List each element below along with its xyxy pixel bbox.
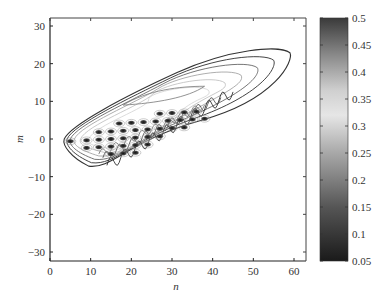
contour-peak [200, 116, 208, 121]
contour-peak [119, 136, 127, 141]
x-tick-label: 30 [167, 265, 179, 277]
x-axis-label: n [173, 280, 179, 292]
colorbar-tick-label: 0.25 [352, 147, 372, 159]
x-tick-label: 20 [126, 265, 138, 277]
y-tick-label: 0 [40, 133, 46, 145]
contour-peak [131, 135, 139, 140]
contour-peak [152, 119, 160, 124]
colorbar-tick-label: 0.35 [352, 93, 372, 105]
contour-peak [168, 110, 176, 115]
contour-peak [66, 139, 74, 144]
contour-peak [107, 129, 115, 134]
contour-peak [119, 128, 127, 133]
contour-peak [156, 126, 164, 131]
x-tick-label: 10 [85, 265, 97, 277]
contour-peak [127, 120, 135, 125]
colorbar-tick-label: 0.45 [352, 39, 372, 51]
colorbar-tick-label: 0.2 [352, 174, 366, 186]
contour-peak [82, 145, 90, 150]
colorbar-tick-label: 0.1 [352, 228, 366, 240]
contour-peak [143, 127, 151, 132]
x-tick-label: 50 [248, 265, 260, 277]
contour-peak [107, 151, 115, 156]
x-tick-label: 0 [47, 265, 53, 277]
y-tick-label: 10 [34, 95, 46, 107]
colorbar-tick-label: 0.05 [352, 255, 372, 267]
contour-peak [143, 142, 151, 147]
contour-peak [107, 136, 115, 141]
y-tick-label: 20 [34, 58, 46, 70]
contour-peak [95, 130, 103, 135]
y-tick-label: −20 [28, 208, 46, 220]
contour-peak [180, 110, 188, 115]
contour-peak [119, 151, 127, 156]
colorbar-tick-label: 0.4 [352, 66, 366, 78]
x-tick-label: 40 [207, 265, 219, 277]
colorbar-tick-label: 0.3 [352, 120, 366, 132]
colorbar-tick-label: 0.5 [352, 12, 366, 24]
contour-peak [95, 137, 103, 142]
contour-peak [156, 111, 164, 116]
contour-peak [143, 134, 151, 139]
contour-peak [95, 145, 103, 150]
contour-peak [115, 121, 123, 126]
y-tick-label: 30 [34, 20, 46, 32]
y-tick-label: −30 [28, 246, 46, 258]
contour-peak [164, 118, 172, 123]
x-tick-label: 60 [289, 265, 301, 277]
contour-peak [180, 125, 188, 130]
contour-peak [176, 117, 184, 122]
contour-peak [131, 150, 139, 155]
colorbar: 0.050.10.150.20.250.30.350.40.450.5 [320, 12, 372, 267]
contour-peak [107, 144, 115, 149]
contour-peak [82, 138, 90, 143]
contour-peak [192, 109, 200, 114]
y-axis-label: m [13, 135, 25, 143]
colorbar-tick-label: 0.15 [352, 201, 372, 213]
contour-peak [131, 128, 139, 133]
contour-peak [131, 143, 139, 148]
y-tick-label: −10 [28, 171, 46, 183]
contour-peak [168, 125, 176, 130]
contour-peak [156, 134, 164, 139]
plot-area: 0102030405060 −30−20−100102030 n m [13, 18, 306, 292]
contour-peak [119, 143, 127, 148]
colorbar-gradient [320, 18, 348, 261]
contour-figure: 0102030405060 −30−20−100102030 n m 0.050… [0, 0, 378, 297]
contour-peak [188, 117, 196, 122]
contour-peak [139, 120, 147, 125]
